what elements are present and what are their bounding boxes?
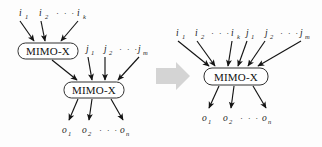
left-edge-block2-on (111, 99, 123, 120)
label-base: i (176, 28, 179, 38)
left-edge-block1-block2 (52, 60, 77, 80)
right-block-merged[interactable]: MIMO-X (204, 68, 268, 85)
label-sub: 1 (68, 130, 71, 137)
left-input-label-i2: i 2 (39, 8, 49, 20)
left-input-label-j1: j 1 (84, 44, 94, 56)
label-base: o (223, 113, 228, 123)
left-block-2-label: MIMO-X (72, 84, 116, 96)
left-block-1[interactable]: MIMO-X (18, 43, 78, 59)
right-edge-o2 (231, 86, 234, 108)
label-sub: 2 (109, 49, 113, 56)
right-edge-i2 (197, 41, 215, 66)
right-output-ellipsis: · · · (240, 113, 260, 123)
label-sub: 2 (201, 33, 205, 40)
right-edge-on (253, 86, 266, 108)
left-edge-block2-o2 (89, 99, 92, 120)
left-edge-ik-block1 (61, 21, 78, 41)
label-sub: m (305, 33, 310, 40)
left-input-label-ik: i k (77, 8, 86, 20)
left-edge-i1-block1 (20, 21, 34, 41)
label-base: j (102, 44, 107, 54)
label-sub: 1 (91, 49, 94, 56)
left-edge-j1-block2 (88, 57, 92, 80)
left-output-ellipsis: · · · (99, 125, 119, 135)
label-base: o (202, 113, 207, 123)
left-output-label-o1: o 1 (62, 125, 71, 137)
left-block-1-label: MIMO-X (26, 45, 70, 57)
left-input-ellipsis: · · · (56, 8, 76, 18)
right-input-label-ik: i k (231, 28, 240, 40)
right-edge-jm (258, 41, 301, 66)
right-input-ellipsis-i: · · · (211, 28, 231, 38)
label-base: o (262, 113, 267, 123)
label-sub: 2 (229, 118, 233, 125)
label-sub: 2 (270, 33, 274, 40)
right-edge-o1 (209, 86, 219, 108)
right-input-ellipsis-j: · · · (280, 28, 300, 38)
label-sub: n (268, 118, 271, 125)
label-base: i (231, 28, 234, 38)
right-input-label-jm: j m (298, 28, 310, 40)
label-sub: k (237, 33, 240, 40)
label-base: o (62, 125, 67, 135)
left-edge-jm-block2 (118, 57, 139, 80)
left-output-label-o2: o 2 (82, 125, 92, 137)
diagram-svg: i 1 i 2 · · · i k MIMO-X j (0, 0, 322, 147)
label-sub: k (83, 13, 86, 20)
label-sub: 1 (25, 13, 28, 20)
left-edge-block2-o1 (69, 99, 78, 120)
left-input-label-j2: j 2 (102, 44, 113, 56)
label-base: i (77, 8, 80, 18)
left-input-label-jm: j m (136, 44, 148, 56)
label-sub: 2 (45, 13, 49, 20)
transform-arrow (156, 62, 190, 90)
left-edge-i2-block1 (41, 21, 45, 41)
right-input-label-j2: j 2 (263, 28, 274, 40)
right-input-label-j1: j 1 (244, 28, 254, 40)
label-sub: n (126, 130, 129, 137)
label-base: o (120, 125, 125, 135)
left-block-2[interactable]: MIMO-X (64, 82, 124, 98)
label-sub: 1 (182, 33, 185, 40)
right-block-label: MIMO-X (214, 71, 258, 83)
figure-canvas: i 1 i 2 · · · i k MIMO-X j (0, 0, 322, 147)
right-edge-j1 (238, 41, 247, 66)
label-sub: m (143, 49, 148, 56)
label-base: i (39, 8, 42, 18)
right-diagram-group: i 1 i 2 · · · i k j 1 j 2 · · · j (176, 28, 310, 125)
right-edge-i1 (178, 41, 209, 66)
label-sub: 1 (208, 118, 211, 125)
left-diagram-group: i 1 i 2 · · · i k MIMO-X j (18, 8, 148, 137)
label-sub: 1 (251, 33, 254, 40)
label-base: j (244, 28, 249, 38)
left-input-label-i1: i 1 (19, 8, 28, 20)
right-output-label-on: o n (262, 113, 271, 125)
label-base: i (19, 8, 22, 18)
right-output-label-o1: o 1 (202, 113, 211, 125)
right-edge-ik (228, 41, 232, 66)
right-input-label-i1: i 1 (176, 28, 185, 40)
rightwards-block-arrow-shape (156, 62, 190, 90)
label-base: o (82, 125, 87, 135)
label-base: j (263, 28, 268, 38)
label-base: i (195, 28, 198, 38)
right-edge-j2 (248, 41, 265, 66)
label-base: j (84, 44, 89, 54)
right-output-label-o2: o 2 (223, 113, 233, 125)
right-input-label-i2: i 2 (195, 28, 205, 40)
left-mid-ellipsis: · · · (119, 44, 139, 54)
left-output-label-on: o n (120, 125, 129, 137)
label-sub: 2 (88, 130, 92, 137)
